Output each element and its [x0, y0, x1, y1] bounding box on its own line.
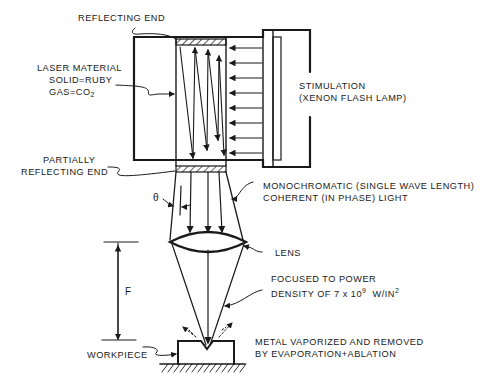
laser-diagram — [0, 0, 482, 388]
density-unit-exponent: 2 — [395, 287, 399, 294]
density-unit: W/IN — [373, 289, 395, 299]
lens — [170, 232, 246, 252]
laser-housing — [134, 30, 310, 72]
label-gas-co2: GAS=CO2 — [49, 86, 95, 101]
label-metal-vaporized: METAL VAPORIZED AND REMOVED — [255, 336, 424, 348]
label-laser-material: LASER MATERIAL — [37, 62, 122, 74]
label-focused: FOCUSED TO POWER — [271, 273, 376, 285]
label-solid-ruby: SOLID=RUBY — [49, 74, 112, 86]
label-coherent: COHERENT (IN PHASE) LIGHT — [263, 192, 408, 204]
label-flash-lamp: (XENON FLASH LAMP) — [299, 92, 407, 104]
label-partially: PARTIALLY — [43, 154, 96, 166]
label-theta: θ — [153, 192, 159, 204]
label-power-density: DENSITY OF 7 x 109 W/IN2 — [271, 285, 399, 300]
flash-lamp — [263, 30, 273, 167]
label-lens: LENS — [275, 247, 301, 259]
density-exponent: 9 — [362, 287, 366, 294]
density-prefix: DENSITY OF 7 x 10 — [271, 289, 362, 299]
label-reflecting-end: REFLECTING END — [78, 12, 165, 24]
gas-prefix: GAS=CO — [49, 87, 91, 97]
label-workpiece: WORKPIECE — [87, 349, 148, 361]
label-focal-length: F — [125, 286, 132, 298]
label-evaporation-ablation: BY EVAPORATION+ABLATION — [255, 348, 396, 360]
partially-reflecting-mirror — [176, 166, 226, 172]
label-partially-reflecting-end: REFLECTING END — [21, 166, 108, 178]
label-stimulation: STIMULATION — [299, 80, 366, 92]
label-monochromatic: MONOCHROMATIC (SINGLE WAVE LENGTH) — [263, 180, 474, 192]
reflecting-end-mirror — [176, 39, 226, 45]
gas-subscript: 2 — [91, 91, 95, 98]
